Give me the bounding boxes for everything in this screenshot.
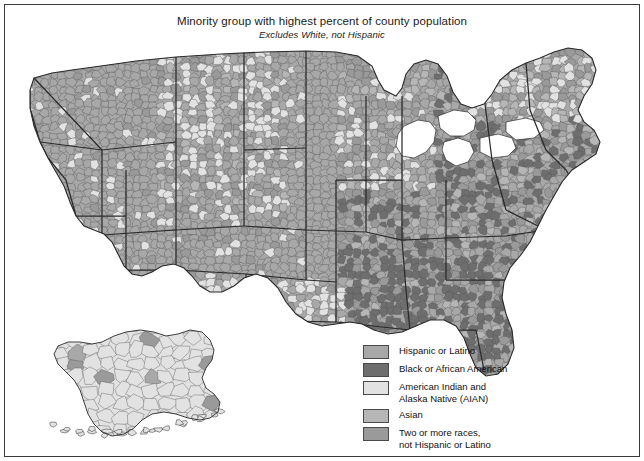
figure-root: Minority group with highest percent of c… — [0, 0, 644, 461]
legend: Hispanic or Latino Black or African Amer… — [363, 344, 553, 454]
legend-label-aian: American Indian and Alaska Native (AIAN) — [399, 380, 488, 405]
legend-item: Hispanic or Latino — [363, 344, 553, 359]
legend-swatch-black — [363, 363, 389, 377]
legend-item: Two or more races, not Hispanic or Latin… — [363, 426, 553, 451]
legend-item: Asian — [363, 408, 553, 423]
legend-item: Black or African American — [363, 362, 553, 377]
legend-item: American Indian and Alaska Native (AIAN) — [363, 380, 553, 405]
page-title: Minority group with highest percent of c… — [0, 14, 644, 28]
legend-label-asian: Asian — [399, 408, 423, 421]
legend-swatch-two-or-more — [363, 427, 389, 441]
legend-swatch-aian — [363, 381, 389, 395]
legend-label-hispanic: Hispanic or Latino — [399, 344, 475, 357]
legend-swatch-asian — [363, 409, 389, 423]
legend-label-two-or-more: Two or more races, not Hispanic or Latin… — [399, 426, 491, 451]
legend-label-black: Black or African American — [399, 362, 507, 375]
legend-swatch-hispanic — [363, 345, 389, 359]
